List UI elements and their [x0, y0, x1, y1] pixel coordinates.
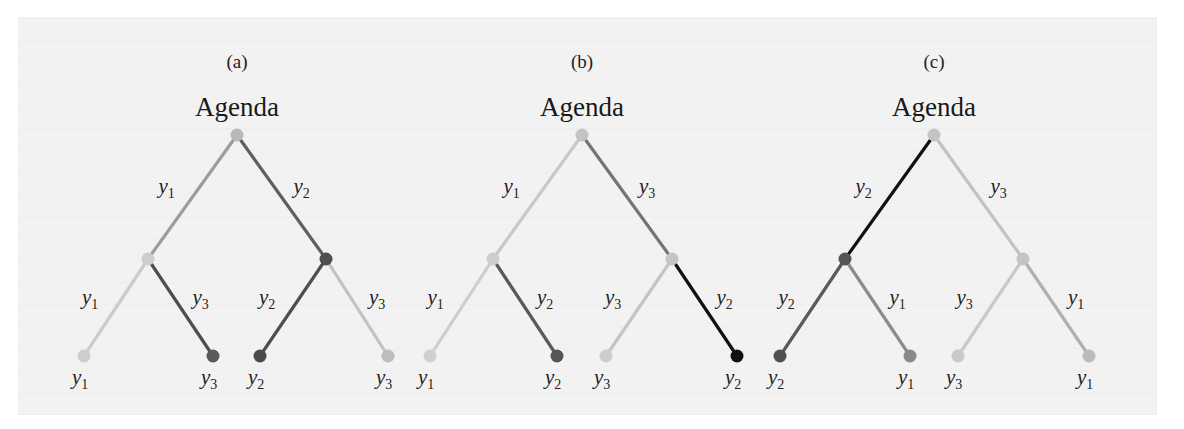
- agenda-title: Agenda: [195, 92, 279, 122]
- subfigure-label: (a): [226, 51, 247, 73]
- decision-node: [839, 253, 852, 266]
- edge-label: y1: [426, 285, 444, 312]
- agenda-title: Agenda: [540, 92, 624, 122]
- tree-c: (c)Agenday2y3y2y1y3y1y2y1y3y1: [766, 51, 1096, 392]
- edge-label: y1: [502, 174, 520, 201]
- edge-label: y1: [888, 285, 906, 312]
- edge-label: y1: [80, 285, 98, 312]
- leaf-node: [600, 350, 613, 363]
- root-node: [231, 129, 244, 142]
- tree-edge: [237, 135, 326, 259]
- leaf-outcome-label: y1: [896, 365, 914, 392]
- edge-label: y3: [989, 174, 1007, 201]
- leaf-outcome-label: y3: [944, 365, 962, 392]
- leaf-node: [731, 350, 744, 363]
- leaf-node: [952, 350, 965, 363]
- leaf-outcome-label: y2: [766, 365, 784, 392]
- edge-label: y3: [637, 174, 655, 201]
- agenda-trees-figure: (a)Agenday1y2y1y3y2y3y1y3y2y3(b)Agenday1…: [0, 0, 1184, 429]
- subfigure-label: (c): [923, 51, 944, 73]
- decision-node: [487, 253, 500, 266]
- leaf-outcome-label: y3: [199, 365, 217, 392]
- leaf-node: [207, 350, 220, 363]
- leaf-node: [424, 350, 437, 363]
- edge-label: y1: [1066, 285, 1084, 312]
- edge-label: y3: [367, 285, 385, 312]
- edge-label: y1: [157, 174, 175, 201]
- edge-label: y2: [777, 285, 795, 312]
- subfigure-label: (b): [571, 51, 593, 73]
- edge-label: y2: [854, 174, 872, 201]
- edge-label: y3: [603, 285, 621, 312]
- tree-edge: [582, 135, 672, 259]
- leaf-node: [254, 350, 267, 363]
- leaf-node: [904, 350, 917, 363]
- leaf-outcome-label: y2: [246, 365, 264, 392]
- edge-label: y3: [955, 285, 973, 312]
- edge-label: y3: [191, 285, 209, 312]
- decision-node: [666, 253, 679, 266]
- leaf-outcome-label: y2: [723, 365, 741, 392]
- leaf-node: [774, 350, 787, 363]
- leaf-outcome-label: y3: [374, 365, 392, 392]
- edge-label: y2: [715, 285, 733, 312]
- leaf-outcome-label: y3: [592, 365, 610, 392]
- leaf-node: [551, 350, 564, 363]
- leaf-outcome-label: y2: [543, 365, 561, 392]
- root-node: [576, 129, 589, 142]
- decision-node: [1017, 253, 1030, 266]
- root-node: [928, 129, 941, 142]
- agenda-title: Agenda: [892, 92, 976, 122]
- leaf-outcome-label: y1: [1075, 365, 1093, 392]
- leaf-outcome-label: y1: [416, 365, 434, 392]
- leaf-outcome-label: y1: [70, 365, 88, 392]
- tree-edge: [934, 135, 1023, 259]
- leaf-node: [78, 350, 91, 363]
- edge-label: y2: [535, 285, 553, 312]
- decision-node: [142, 253, 155, 266]
- tree-a: (a)Agenday1y2y1y3y2y3y1y3y2y3: [70, 51, 395, 392]
- tree-b: (b)Agenday1y3y1y2y3y2y1y2y3y2: [416, 51, 744, 392]
- edge-label: y2: [292, 174, 310, 201]
- leaf-node: [382, 350, 395, 363]
- edge-label: y2: [257, 285, 275, 312]
- decision-node: [320, 253, 333, 266]
- leaf-node: [1083, 350, 1096, 363]
